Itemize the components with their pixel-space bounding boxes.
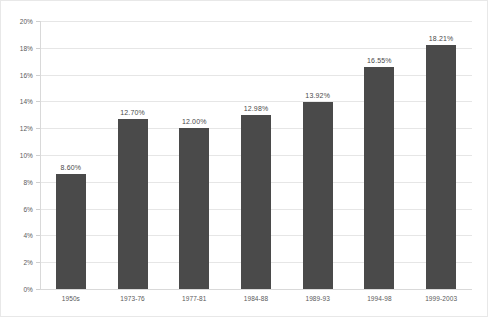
x-axis-tick-label: 1950s	[62, 295, 80, 302]
y-axis-tick-mark	[36, 262, 40, 263]
bar[interactable]	[56, 174, 86, 289]
bar-group: 8.60%	[40, 21, 102, 289]
y-axis-tick-mark	[36, 289, 40, 290]
x-axis-tick-label: 1999-2003	[425, 295, 457, 302]
bar-group: 18.21%	[410, 21, 472, 289]
y-axis-tick-label: 0%	[23, 286, 33, 293]
x-axis-tick-label: 1984-88	[244, 295, 269, 302]
bar-value-label: 18.21%	[429, 35, 454, 42]
y-axis-line	[40, 21, 41, 290]
y-axis-tick-mark	[36, 209, 40, 210]
y-axis-tick-label: 10%	[20, 152, 33, 159]
y-axis-tick-mark	[36, 128, 40, 129]
y-axis-tick-label: 6%	[23, 205, 33, 212]
y-axis-tick-mark	[36, 235, 40, 236]
y-axis-tick-label: 12%	[20, 125, 33, 132]
x-axis-tick-label: 1977-81	[182, 295, 207, 302]
x-axis-tick-label: 1994-98	[367, 295, 392, 302]
bar[interactable]	[303, 102, 333, 289]
x-axis-tick-label: 1989-93	[305, 295, 330, 302]
y-axis-tick-mark	[36, 75, 40, 76]
bar-group: 16.55%	[349, 21, 411, 289]
bar-value-label: 8.60%	[61, 164, 82, 171]
bar[interactable]	[426, 45, 456, 289]
bar-value-label: 12.00%	[182, 118, 207, 125]
bar-value-label: 13.92%	[305, 92, 330, 99]
gridline	[40, 289, 472, 290]
bar[interactable]	[241, 115, 271, 289]
y-axis-tick-label: 4%	[23, 232, 33, 239]
y-axis-tick-mark	[36, 48, 40, 49]
bar[interactable]	[118, 119, 148, 289]
y-axis-tick-mark	[36, 182, 40, 183]
y-axis-tick-label: 18%	[20, 44, 33, 51]
bar[interactable]	[364, 67, 394, 289]
y-axis-tick-label: 14%	[20, 98, 33, 105]
bar-group: 13.92%	[287, 21, 349, 289]
bar-group: 12.00%	[163, 21, 225, 289]
bar-group: 12.70%	[102, 21, 164, 289]
y-axis-tick-mark	[36, 155, 40, 156]
bar-chart: 8.60%12.70%12.00%12.98%13.92%16.55%18.21…	[0, 0, 488, 317]
bar-group: 12.98%	[225, 21, 287, 289]
bar-value-label: 12.70%	[120, 109, 145, 116]
y-axis-tick-label: 20%	[20, 18, 33, 25]
y-axis-tick-mark	[36, 21, 40, 22]
bar[interactable]	[179, 128, 209, 289]
x-axis-tick-label: 1973-76	[120, 295, 145, 302]
bar-value-label: 12.98%	[244, 105, 269, 112]
y-axis-tick-mark	[36, 101, 40, 102]
plot-area: 8.60%12.70%12.00%12.98%13.92%16.55%18.21…	[40, 21, 472, 289]
y-axis-tick-label: 2%	[23, 259, 33, 266]
y-axis-tick-label: 8%	[23, 178, 33, 185]
bar-value-label: 16.55%	[367, 57, 392, 64]
y-axis-tick-label: 16%	[20, 71, 33, 78]
